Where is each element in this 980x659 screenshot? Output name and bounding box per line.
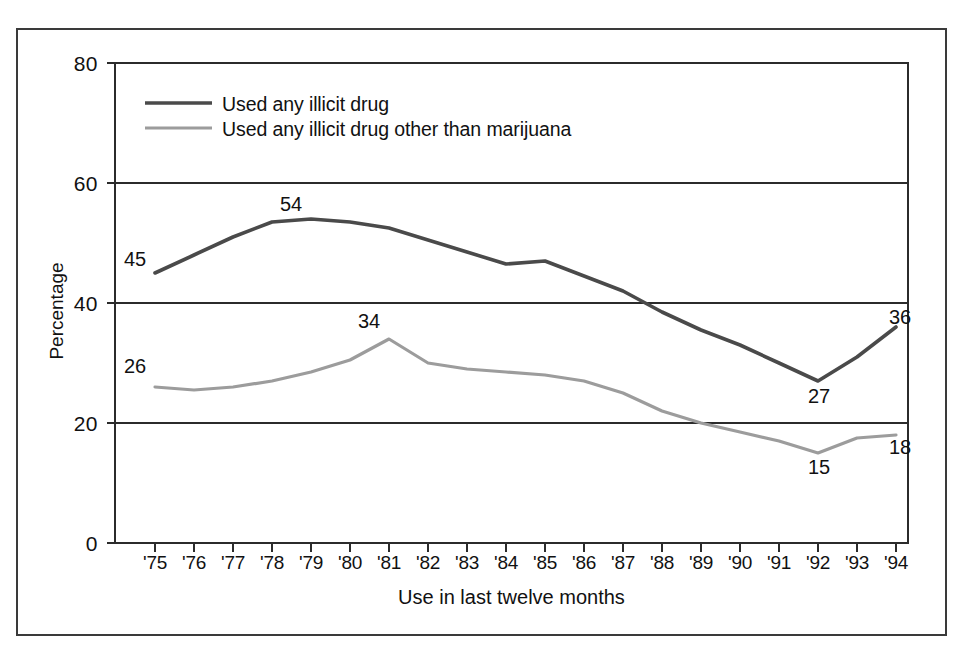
data-label-dark-79: 54	[269, 193, 313, 216]
x-tick-label-90: '90	[718, 552, 762, 574]
x-tick-label-85: '85	[523, 552, 567, 574]
y-axis-ticks	[107, 63, 115, 543]
x-tick-label-87: '87	[601, 552, 645, 574]
x-tick-label-83: '83	[445, 552, 489, 574]
x-tick-label-79: '79	[289, 552, 333, 574]
data-label-dark-92: 27	[797, 385, 841, 408]
legend-item-label-used-any-illicit-drug-other-than-marijuana: Used any illicit drug other than marijua…	[222, 118, 571, 141]
series-line-used-any-illicit-drug	[155, 219, 896, 381]
x-tick-label-92: '92	[796, 552, 840, 574]
y-tick-label-20: 20	[38, 412, 98, 436]
data-label-light-94: 18	[878, 436, 922, 459]
x-tick-label-77: '77	[211, 552, 255, 574]
x-tick-label-75: '75	[133, 552, 177, 574]
x-tick-label-78: '78	[250, 552, 294, 574]
x-tick-label-89: '89	[679, 552, 723, 574]
y-axis-title: Percentage	[46, 231, 68, 391]
x-tick-label-82: '82	[406, 552, 450, 574]
x-tick-label-91: '91	[757, 552, 801, 574]
data-label-light-81: 34	[347, 310, 391, 333]
x-tick-label-76: '76	[172, 552, 216, 574]
data-label-light-92: 15	[797, 456, 841, 479]
y-tick-label-0: 0	[38, 532, 98, 556]
data-label-dark-75: 45	[113, 248, 157, 271]
x-tick-label-94: '94	[874, 552, 918, 574]
x-tick-label-80: '80	[328, 552, 372, 574]
x-axis-title: Use in last twelve months	[115, 586, 908, 609]
legend-item-label-used-any-illicit-drug: Used any illicit drug	[222, 93, 389, 116]
x-tick-label-84: '84	[484, 552, 528, 574]
data-label-light-75: 26	[113, 355, 157, 378]
x-tick-label-93: '93	[835, 552, 879, 574]
series-line-used-any-illicit-drug-other-than-marijuana	[155, 339, 896, 453]
x-tick-label-86: '86	[562, 552, 606, 574]
y-tick-label-80: 80	[38, 52, 98, 76]
data-label-dark-94: 36	[878, 306, 922, 329]
x-axis-ticks	[155, 543, 896, 552]
x-tick-label-88: '88	[640, 552, 684, 574]
x-tick-label-81: '81	[367, 552, 411, 574]
y-tick-label-60: 60	[38, 172, 98, 196]
